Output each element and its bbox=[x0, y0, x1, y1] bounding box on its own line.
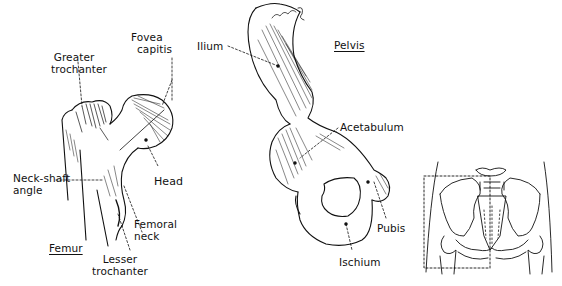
label-acetabulum: Acetabulum bbox=[340, 121, 404, 133]
label-line: Fovea bbox=[131, 31, 172, 43]
label-head: Head bbox=[154, 176, 183, 188]
femur-title: Femur bbox=[49, 242, 83, 254]
pelvis-title: Pelvis bbox=[334, 39, 365, 51]
label-line: Femoral bbox=[134, 218, 177, 230]
label-line: trochanter bbox=[41, 63, 107, 75]
label-line: neck bbox=[134, 230, 177, 242]
line-drawings bbox=[0, 0, 562, 286]
label-line: capitis bbox=[131, 43, 172, 55]
label-line: angle bbox=[13, 184, 70, 196]
pelvis-overview-drawing bbox=[424, 162, 552, 274]
label-pubis: Pubis bbox=[377, 222, 405, 234]
label-line: Lesser bbox=[92, 253, 148, 265]
label-line: Greater bbox=[41, 51, 107, 63]
label-femoral-neck: Femoral neck bbox=[134, 218, 177, 242]
label-neck-shaft-angle: Neck-shaft angle bbox=[13, 172, 70, 196]
label-greater-trochanter: Greater trochanter bbox=[41, 51, 107, 75]
label-lesser-trochanter: Lesser trochanter bbox=[92, 253, 148, 277]
label-ischium: Ischium bbox=[339, 256, 381, 268]
label-fovea-capitis: Fovea capitis bbox=[131, 31, 172, 55]
label-line: trochanter bbox=[92, 265, 148, 277]
label-line: Neck-shaft bbox=[13, 172, 70, 184]
label-ilium: Ilium bbox=[197, 40, 223, 52]
anatomy-figure: Greater trochanter Fovea capitis Neck-sh… bbox=[0, 0, 562, 286]
